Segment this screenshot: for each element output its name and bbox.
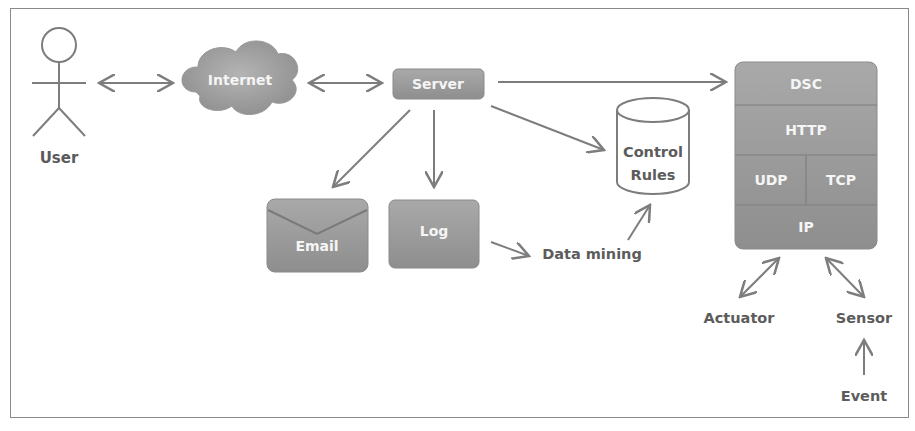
actuator-label: Actuator <box>704 310 776 326</box>
ip-layer-label: IP <box>798 219 813 235</box>
control-rules-label-line2: Rules <box>631 167 676 183</box>
edge-server-control-rules <box>491 106 604 150</box>
dsc-layer-label: DSC <box>790 76 822 92</box>
edge-ip-sensor <box>826 258 864 297</box>
sensor-label: Sensor <box>836 310 893 326</box>
email-envelope-icon <box>267 199 368 272</box>
internet-label: Internet <box>208 72 273 88</box>
edge-log-data-mining <box>491 242 529 256</box>
architecture-diagram: User Internet Server Control Rules Email… <box>0 0 915 431</box>
server-label: Server <box>412 76 464 92</box>
user-icon <box>32 28 86 136</box>
log-label: Log <box>420 223 449 239</box>
email-label: Email <box>295 238 338 254</box>
event-label: Event <box>841 388 888 404</box>
edge-data-mining-control-rules <box>628 205 650 240</box>
edge-ip-actuator <box>740 258 779 297</box>
user-label: User <box>40 149 79 167</box>
udp-layer-label: UDP <box>754 172 787 188</box>
data-mining-label: Data mining <box>542 246 642 262</box>
edge-server-email <box>333 110 410 187</box>
tcp-layer-label: TCP <box>826 172 856 188</box>
http-layer-label: HTTP <box>785 122 826 138</box>
control-rules-label-line1: Control <box>623 144 683 160</box>
